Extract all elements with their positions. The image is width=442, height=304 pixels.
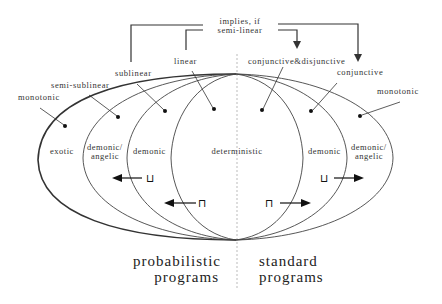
meet-symbol-left: ⊓ <box>198 197 207 210</box>
join-symbol-left: ⊔ <box>146 172 155 185</box>
label-sublinear: sublinear <box>115 68 152 78</box>
region-exotic: exotic <box>50 146 74 156</box>
leader-line <box>263 67 283 109</box>
region-demonic-angelic-right-2: angelic <box>355 151 383 161</box>
caption-programs-right: programs <box>259 269 324 285</box>
dot-marker <box>260 108 264 112</box>
meet-symbol-right: ⊓ <box>265 197 274 210</box>
region-demonic-right: demonic <box>308 146 341 156</box>
dot-marker <box>116 115 120 119</box>
region-demonic-left: demonic <box>133 146 166 156</box>
leader-line <box>89 95 117 116</box>
semantics-diagram: implies, if semi-linear monotonic semi-s… <box>0 0 442 304</box>
implies-note-line2: semi-linear <box>218 25 263 35</box>
implies-bracket-inner <box>186 30 203 50</box>
label-conjunctive-disjunctive: conjunctive&disjunctive <box>248 56 345 66</box>
demonic-left-boundary <box>127 74 236 240</box>
arrowhead-down-icon <box>354 54 362 62</box>
region-deterministic: deterministic <box>212 146 263 156</box>
dot-marker <box>63 124 67 128</box>
dot-marker <box>309 109 313 113</box>
arrowhead-right-icon <box>301 199 311 207</box>
region-demonic-angelic-left-2: angelic <box>91 151 119 161</box>
label-conjunctive: conjunctive <box>337 67 383 77</box>
caption-programs-left: programs <box>154 269 219 285</box>
label-monotonic-left: monotonic <box>18 92 60 102</box>
implies-arrow-outer <box>278 24 358 56</box>
label-linear: linear <box>174 56 197 66</box>
label-monotonic-right: monotonic <box>377 86 419 96</box>
deterministic-right-boundary <box>236 74 303 240</box>
deterministic-left-boundary <box>171 74 236 240</box>
join-symbol-right: ⊔ <box>320 172 329 185</box>
exotic-boundary <box>38 74 236 240</box>
demonic-right-boundary <box>236 74 347 240</box>
caption-probabilistic: probabilistic <box>133 253 221 269</box>
leader-line <box>362 102 400 115</box>
arrowhead-right-icon <box>354 174 364 182</box>
arrowhead-left-icon <box>164 199 174 207</box>
arrowhead-down-icon <box>293 41 301 49</box>
leader-line <box>137 84 164 110</box>
dot-marker <box>163 109 167 113</box>
caption-standard: standard <box>259 253 318 269</box>
dot-marker <box>358 114 362 118</box>
dot-marker <box>212 107 216 111</box>
arrowhead-left-icon <box>112 174 122 182</box>
label-semi-sublinear: semi-sublinear <box>51 80 109 90</box>
